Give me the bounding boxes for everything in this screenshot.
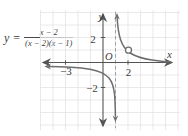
y-tick-label-positive: 2 [90, 33, 96, 45]
graph-figure: y x O 2 −2 2 −3 [0, 0, 188, 136]
y-tick-label-negative: −2 [86, 82, 98, 94]
x-tick-label-negative: −3 [60, 65, 72, 77]
hole-open-circle [126, 47, 132, 53]
curve-left-branch [47, 67, 115, 117]
curve-right-branch [117, 18, 170, 62]
origin-label: O [105, 51, 113, 62]
x-tick-label-positive: 2 [126, 66, 132, 78]
x-axis-label: x [166, 48, 172, 60]
y-axis [100, 14, 106, 126]
y-axis-label: y [98, 10, 104, 22]
